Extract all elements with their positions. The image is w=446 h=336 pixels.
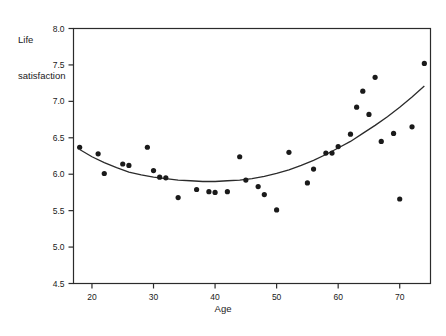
data-point xyxy=(145,145,150,150)
x-axis-title: Age xyxy=(0,303,446,315)
data-point xyxy=(176,195,181,200)
data-point xyxy=(348,132,353,137)
data-point xyxy=(379,139,384,144)
data-point xyxy=(120,161,125,166)
y-tick-label: 4.5 xyxy=(53,279,65,289)
data-point xyxy=(311,167,316,172)
x-axis-ticks: 203040506070 xyxy=(87,284,404,302)
data-point xyxy=(237,154,242,159)
data-point xyxy=(360,89,365,94)
data-point xyxy=(163,175,168,180)
x-tick-label: 20 xyxy=(87,292,97,302)
y-tick-label: 6.5 xyxy=(53,133,65,143)
data-point xyxy=(305,180,310,185)
x-tick-label: 50 xyxy=(272,292,282,302)
data-point xyxy=(366,112,371,117)
data-point xyxy=(323,150,328,155)
data-point xyxy=(243,177,248,182)
data-point xyxy=(212,190,217,195)
data-point xyxy=(274,207,279,212)
data-point xyxy=(422,61,427,66)
data-point xyxy=(262,192,267,197)
y-axis-title-line1: Life xyxy=(18,34,66,46)
data-point xyxy=(373,75,378,80)
plot-area: 4.55.05.56.06.57.07.58.0 203040506070 xyxy=(0,0,446,336)
x-tick-label: 40 xyxy=(210,292,220,302)
plot-frame xyxy=(74,29,431,284)
data-point xyxy=(329,150,334,155)
data-point xyxy=(157,175,162,180)
data-point xyxy=(102,171,107,176)
x-tick-label: 30 xyxy=(149,292,159,302)
data-point xyxy=(397,196,402,201)
fit-curve xyxy=(80,86,425,181)
data-point xyxy=(194,187,199,192)
scatter-chart: Life satisfaction 4.55.05.56.06.57.07.58… xyxy=(0,0,446,336)
data-point xyxy=(77,145,82,150)
x-tick-label: 70 xyxy=(395,292,405,302)
data-point xyxy=(391,131,396,136)
data-point xyxy=(96,151,101,156)
y-axis-title: Life satisfaction xyxy=(18,10,66,106)
data-point xyxy=(286,150,291,155)
y-tick-label: 6.0 xyxy=(53,169,65,179)
data-point xyxy=(256,184,261,189)
y-tick-label: 5.0 xyxy=(53,242,65,252)
data-point xyxy=(126,163,131,168)
data-point xyxy=(409,124,414,129)
data-point xyxy=(354,105,359,110)
data-point xyxy=(151,168,156,173)
x-tick-label: 60 xyxy=(333,292,343,302)
data-point xyxy=(336,144,341,149)
y-tick-label: 5.5 xyxy=(53,206,65,216)
data-point xyxy=(206,189,211,194)
y-axis-title-line2: satisfaction xyxy=(18,70,66,82)
data-points xyxy=(77,61,427,213)
data-point xyxy=(225,189,230,194)
